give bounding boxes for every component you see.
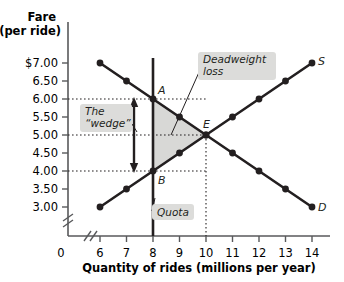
x-tick-label: 13: [278, 246, 293, 260]
data-point: [256, 168, 263, 175]
y-tick-label: 6.00: [32, 92, 58, 106]
y-tick-label: 4.00: [32, 164, 58, 178]
y-tick-label: $7.00: [25, 56, 58, 70]
x-tick-label: 7: [123, 246, 130, 260]
y-tick-label: 3.50: [32, 182, 58, 196]
x-tick-label: 6: [96, 246, 103, 260]
data-point: [123, 78, 130, 85]
data-point: [229, 114, 236, 121]
y-tick-label: 5.50: [32, 110, 58, 124]
data-point: [150, 96, 157, 103]
point-b-label: B: [158, 174, 166, 187]
x-tick-label: 9: [176, 246, 183, 260]
deadweight-label-line1: Deadweight: [203, 53, 267, 65]
deadweight-loss-callout: Deadweight loss: [198, 52, 276, 80]
quota-label: Quota: [157, 206, 189, 218]
data-point: [97, 204, 104, 211]
x-tick-label: 12: [252, 246, 267, 260]
data-point: [123, 186, 130, 193]
y-tick-label: 5.00: [32, 128, 58, 142]
y-axis-title-line2: (per ride): [0, 24, 61, 38]
point-a-label: A: [157, 84, 166, 97]
x-axis-title: Quantity of rides (millions per year): [82, 261, 315, 275]
data-point: [176, 150, 183, 157]
x-tick-labels: 67891011121314: [96, 246, 319, 260]
deadweight-label-line2: loss: [203, 65, 224, 77]
data-point: [282, 78, 289, 85]
data-point: [203, 132, 210, 139]
data-point: [309, 204, 316, 211]
equilibrium-label: E: [203, 118, 210, 131]
data-point: [282, 186, 289, 193]
wedge-callout: The “wedge”: [80, 104, 132, 132]
demand-curve-label: D: [318, 201, 326, 214]
x-tick-label: 14: [305, 246, 320, 260]
wedge-label-line2: “wedge”: [85, 117, 131, 129]
x-tick-label: 8: [149, 246, 156, 260]
y-tick-label: 4.50: [32, 146, 58, 160]
supply-curve-label: S: [318, 55, 325, 68]
data-point: [97, 60, 104, 67]
wedge-label-line1: The: [85, 105, 105, 117]
y-tick-label: 3.00: [32, 200, 58, 214]
origin-label: 0: [57, 246, 64, 260]
data-point: [150, 168, 157, 175]
quota-deadweight-loss-chart: Deadweight loss The “wedge” Quota A B E …: [0, 0, 344, 282]
data-point: [309, 60, 316, 67]
x-tick-label: 10: [199, 246, 214, 260]
quota-callout: Quota: [152, 204, 194, 220]
data-point: [256, 96, 263, 103]
data-point: [229, 150, 236, 157]
y-tick-label: 6.50: [32, 74, 58, 88]
y-axis-title-line1: Fare: [28, 10, 57, 24]
x-tick-label: 11: [225, 246, 240, 260]
